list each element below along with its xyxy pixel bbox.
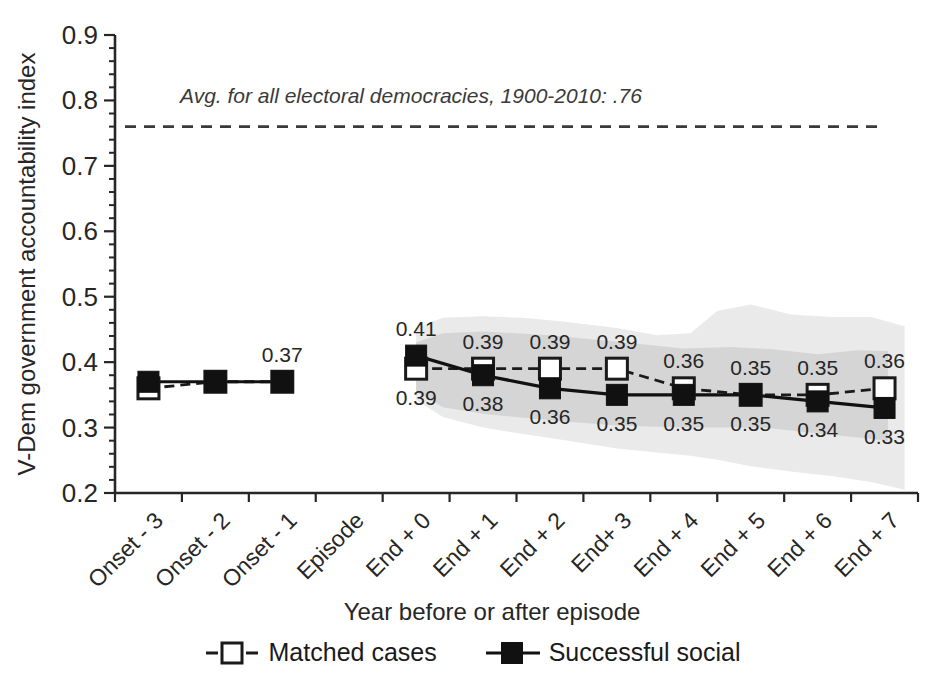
- point-label: 0.34: [797, 418, 838, 441]
- data-point-marker-successful-social: [539, 378, 560, 399]
- x-tick-label: End + 5: [695, 507, 770, 582]
- point-label: 0.36: [864, 349, 905, 372]
- legend-successful-social-label: Successful social: [549, 638, 741, 667]
- point-label: 0.35: [797, 356, 838, 379]
- point-label: 0.39: [463, 330, 504, 353]
- data-point-marker-matched-cases: [874, 378, 895, 399]
- y-tick-label: 0.9: [62, 20, 98, 50]
- x-tick-label: End + 0: [361, 507, 436, 582]
- y-tick-label: 0.3: [62, 413, 98, 443]
- y-tick-label: 0.2: [62, 478, 98, 508]
- x-axis-title: Year before or after episode: [344, 598, 641, 626]
- x-tick-label: End + 7: [829, 507, 904, 582]
- point-label: 0.38: [463, 392, 504, 415]
- data-point-marker-successful-social: [673, 384, 694, 405]
- chart-container: 0.370.410.390.390.380.390.360.390.350.36…: [0, 0, 945, 687]
- point-label: 0.37: [262, 343, 303, 366]
- data-point-marker-successful-social: [272, 371, 293, 392]
- point-label: 0.39: [596, 330, 637, 353]
- data-point-marker-successful-social: [874, 397, 895, 418]
- data-point-marker-successful-social: [740, 384, 761, 405]
- y-tick-label: 0.8: [62, 85, 98, 115]
- reference-line-annotation: Avg. for all electoral democracies, 1900…: [180, 84, 642, 108]
- point-label: 0.36: [530, 405, 571, 428]
- data-point-marker-successful-social: [807, 391, 828, 412]
- point-label: 0.33: [864, 425, 905, 448]
- data-point-marker-matched-cases: [606, 358, 627, 379]
- y-tick-label: 0.7: [62, 151, 98, 181]
- legend-matched-cases-marker-icon: [205, 641, 261, 665]
- point-label: 0.35: [663, 412, 704, 435]
- x-tick-label: End + 1: [428, 507, 503, 582]
- x-tick-label: Onset - 1: [217, 507, 302, 592]
- data-point-marker-successful-social: [473, 365, 494, 386]
- x-tick-label: End + 2: [495, 507, 570, 582]
- x-tick-label: End+ 3: [566, 507, 636, 577]
- data-point-marker-successful-social: [606, 384, 627, 405]
- data-point-marker-successful-social: [138, 371, 159, 392]
- point-label: 0.41: [396, 317, 437, 340]
- point-label: 0.35: [596, 412, 637, 435]
- legend-item-successful-social: Successful social: [485, 638, 741, 667]
- y-tick-label: 0.4: [62, 347, 98, 377]
- point-label: 0.39: [530, 330, 571, 353]
- data-point-marker-successful-social: [406, 345, 427, 366]
- x-tick-label: End + 6: [762, 507, 837, 582]
- point-label: 0.39: [396, 386, 437, 409]
- x-tick-label: End + 4: [628, 507, 703, 582]
- point-label: 0.35: [730, 356, 771, 379]
- point-label: 0.35: [730, 412, 771, 435]
- y-tick-label: 0.5: [62, 282, 98, 312]
- x-tick-label: Episode: [292, 507, 369, 584]
- data-point-marker-successful-social: [205, 371, 226, 392]
- legend: Matched cases Successful social: [0, 638, 945, 667]
- data-point-marker-matched-cases: [539, 358, 560, 379]
- legend-item-matched-cases: Matched cases: [205, 638, 437, 667]
- point-label: 0.36: [663, 349, 704, 372]
- y-tick-label: 0.6: [62, 216, 98, 246]
- y-axis-title: V-Dem government accountability index: [13, 53, 41, 476]
- legend-successful-social-marker-icon: [485, 641, 541, 665]
- legend-matched-cases-label: Matched cases: [269, 638, 437, 667]
